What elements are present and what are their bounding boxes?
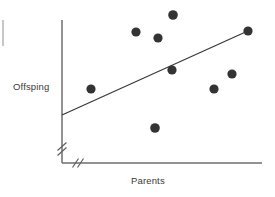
data-point [150,123,160,133]
data-point [243,26,252,35]
data-point-group [86,10,252,133]
data-point [86,84,95,93]
data-point [131,27,140,36]
scatter-plot-figure: Offsping Parents [0,0,275,197]
trend-line [62,30,250,115]
data-point [168,10,178,20]
data-point [227,69,236,78]
x-axis-label: Parents [131,175,165,186]
plot-canvas [0,0,275,197]
data-point [167,65,176,74]
data-point [153,33,162,42]
y-axis-label: Offsping [13,81,49,92]
data-point [209,84,218,93]
